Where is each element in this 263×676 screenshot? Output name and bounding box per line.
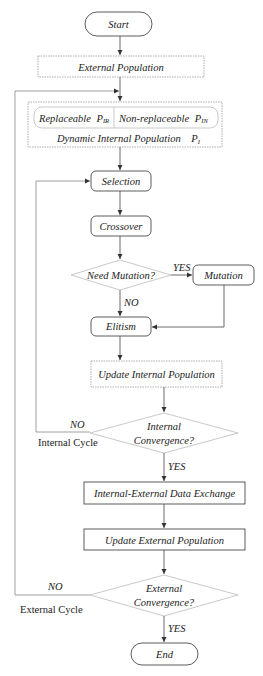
need-mutation-label: Need Mutation? [86, 270, 156, 281]
need-mutation-decision: Need Mutation? [71, 260, 171, 290]
end-node: End [131, 643, 198, 665]
external-population-label: External Population [77, 62, 163, 73]
update-internal-population-label: Update Internal Population [98, 369, 215, 380]
selection-node: Selection [91, 171, 151, 191]
edge-external-cycle-loop [15, 91, 119, 595]
end-label: End [155, 649, 174, 660]
edge-internal-cycle-loop [36, 181, 90, 432]
replaceable-population-label: Replaceable PIR [38, 113, 109, 125]
mutation-node: Mutation [193, 265, 254, 285]
internal-convergence-line2: Convergence? [134, 435, 195, 446]
internal-no-label: NO [69, 419, 85, 430]
crossover-label: Crossover [100, 221, 144, 232]
external-cycle-label: External Cycle [20, 604, 83, 615]
elitism-node: Elitism [91, 317, 151, 336]
crossover-node: Crossover [91, 216, 151, 236]
external-no-label: NO [47, 581, 63, 592]
mutation-no-label: NO [123, 297, 139, 308]
flowchart: Start External Population Replaceable PI… [0, 0, 263, 676]
external-convergence-line1: External [145, 583, 182, 594]
internal-cycle-label: Internal Cycle [38, 437, 98, 448]
elitism-label: Elitism [105, 321, 136, 332]
mutation-label: Mutation [203, 270, 243, 281]
edge-mutation-to-elitism [152, 285, 224, 327]
internal-convergence-line1: Internal [146, 421, 181, 432]
dynamic-internal-population-label: Dynamic Internal Population PI [56, 133, 201, 145]
data-exchange-label: Internal-External Data Exchange [93, 488, 235, 499]
update-external-population-node: Update External Population [84, 529, 245, 550]
external-convergence-line2: Convergence? [134, 597, 195, 608]
non-replaceable-population-label: Non-replaceable PIN [118, 113, 208, 125]
external-population-node: External Population [38, 56, 204, 77]
internal-convergence-decision: Internal Convergence? [90, 413, 238, 453]
internal-yes-label: YES [168, 461, 186, 472]
selection-label: Selection [102, 176, 140, 187]
start-node: Start [85, 12, 152, 36]
external-convergence-decision: External Convergence? [90, 575, 238, 616]
update-internal-population-node: Update Internal Population [91, 361, 222, 387]
start-label: Start [108, 19, 130, 30]
internal-population-node: Replaceable PIR Non-replaceable PIN Dyna… [28, 102, 222, 147]
mutation-yes-label: YES [173, 262, 191, 273]
update-external-population-label: Update External Population [105, 535, 224, 546]
data-exchange-node: Internal-External Data Exchange [84, 482, 245, 504]
external-yes-label: YES [168, 623, 186, 634]
